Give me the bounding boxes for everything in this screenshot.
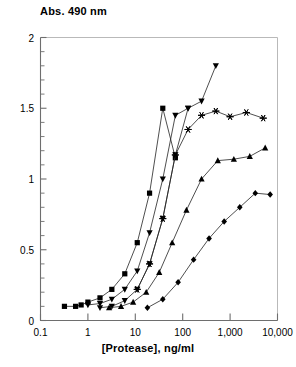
data-series [106,145,268,311]
data-point-marker [109,287,114,292]
data-point-marker [227,114,234,120]
data-point-marker [135,240,140,245]
x-axis-title: [Protease], ng/ml [0,342,296,354]
data-point-marker [134,268,140,274]
data-point-marker [160,176,166,182]
data-series [62,106,178,309]
data-point-marker [73,304,78,309]
data-point-marker [62,304,67,309]
data-point-marker [213,63,219,69]
y-axis-tick-label: 1 [6,174,34,185]
data-point-marker [160,106,165,111]
x-axis-tick-label: 10 [130,327,141,338]
data-point-marker [169,239,175,245]
y-axis-tick-label: 1.5 [6,103,34,114]
data-point-marker [185,106,191,112]
data-point-marker [262,145,268,151]
series-line [64,108,175,306]
data-point-marker [122,287,128,293]
data-point-marker [267,191,273,197]
data-point-marker [122,298,128,304]
data-series [134,108,267,292]
data-point-marker [212,108,219,114]
y-axis-tick-label: 0 [6,315,34,326]
plot-frame [41,38,278,321]
data-point-marker [146,230,152,236]
data-point-marker [97,295,102,300]
data-point-marker [79,302,84,307]
y-axis-tick-label: 0.5 [6,244,34,255]
data-point-marker [243,109,250,115]
data-series [97,106,191,311]
chart-figure: Abs. 490 nm 00.511.520.11101001,00010,00… [0,0,296,367]
data-series [145,190,273,311]
y-axis-tick-label: 2 [6,32,34,43]
series-line [137,111,263,289]
series-line [100,108,188,308]
x-axis-tick-label: 1 [85,327,91,338]
data-point-marker [147,191,152,196]
data-point-marker [172,113,178,119]
series-line [147,193,270,308]
x-axis-tick-label: 100 [174,327,191,338]
data-point-marker [198,99,204,105]
data-series [85,63,219,308]
x-axis-tick-label: 10,000 [262,327,293,338]
data-point-marker [122,271,127,276]
x-axis-tick-label: 0.1 [34,327,48,338]
data-point-marker [145,305,151,311]
x-axis-tick-label: 1,000 [218,327,243,338]
data-point-marker [85,302,91,308]
data-point-marker [130,299,136,305]
data-point-marker [156,269,162,275]
data-point-marker [260,115,267,121]
plot-canvas [0,0,296,367]
axis-lines [41,38,278,321]
data-point-marker [247,153,253,159]
data-point-marker [143,289,149,295]
series-line [109,148,265,308]
series-line [88,66,216,305]
data-point-marker [97,305,103,311]
data-point-marker [183,207,189,213]
